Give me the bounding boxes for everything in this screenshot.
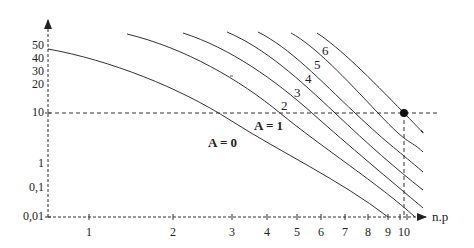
x-axis-title: n.p — [432, 209, 448, 224]
x-tick-label: 8 — [365, 225, 371, 239]
y-tick-label: 10 — [32, 105, 44, 119]
y-tick-label: 20 — [32, 77, 44, 91]
y-tick-label: 40 — [32, 51, 44, 65]
x-tick-label: 7 — [342, 225, 348, 239]
label-a2: 2 — [281, 98, 288, 113]
x-tick-label: 6 — [318, 225, 324, 239]
chart: 1 2 3 4 5 6 7 8 9 10 n.p 50 40 30 20 10 … — [0, 0, 474, 248]
x-tick-label: 3 — [229, 225, 235, 239]
curve-a2 — [183, 33, 423, 208]
curve-a6 — [317, 33, 423, 133]
x-tick-label: 5 — [294, 225, 300, 239]
y-tick-label: 30 — [32, 64, 44, 78]
x-tick-label: 1 — [86, 225, 92, 239]
label-a6: 6 — [322, 43, 329, 58]
x-tick-label: 4 — [264, 225, 270, 239]
y-tick-label: 1 — [38, 156, 44, 170]
label-a3: 3 — [294, 85, 301, 100]
x-tick-label: 10 — [398, 225, 410, 239]
y-tick-label: 50 — [32, 38, 44, 52]
label-a1: A = 1 — [254, 118, 283, 133]
x-tick-label: 2 — [170, 225, 176, 239]
marked-point — [400, 109, 408, 117]
y-tick-label: 0,01 — [23, 209, 44, 223]
y-tick-labels: 50 40 30 20 10 1 0,1 0,01 — [23, 38, 44, 223]
curve-a5 — [291, 33, 423, 152]
x-tick-labels: 1 2 3 4 5 6 7 8 9 10 — [86, 225, 410, 239]
y-tick-label: 0,1 — [29, 180, 44, 194]
curve-a0 — [48, 49, 388, 217]
label-a5: 5 — [314, 57, 321, 72]
x-tick-label: 9 — [385, 225, 391, 239]
label-a0: A = 0 — [208, 135, 237, 150]
label-a4: 4 — [305, 71, 312, 86]
